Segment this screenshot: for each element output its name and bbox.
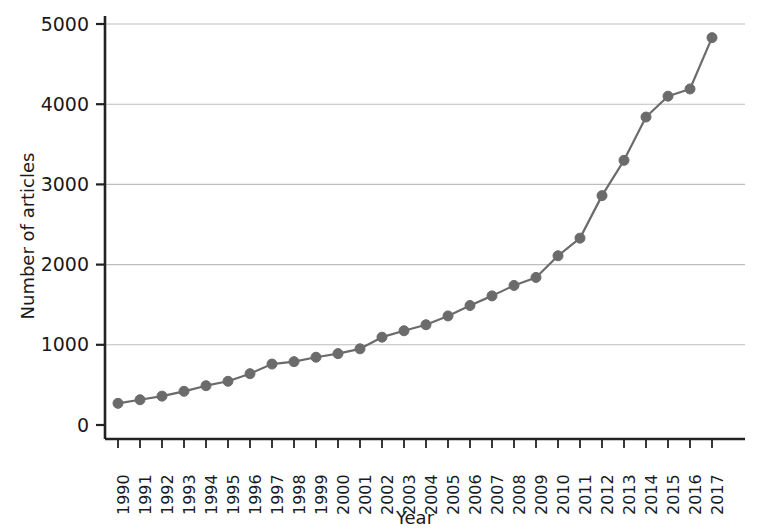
data-point-2006	[465, 301, 475, 311]
y-tick-label-0: 0	[77, 414, 89, 436]
x-axis-label: Year	[395, 507, 435, 528]
x-tick-label-1991: 1991	[136, 474, 155, 515]
data-point-1996	[245, 369, 255, 379]
x-tick-label-2012: 2012	[598, 474, 617, 515]
x-tick-label-1990: 1990	[114, 474, 133, 515]
y-tick-label-3000: 3000	[41, 173, 89, 195]
data-point-2001	[355, 344, 365, 354]
x-tick-label-2016: 2016	[686, 474, 705, 515]
data-point-2002	[377, 332, 387, 342]
chart-figure: 010002000300040005000 199019911992199319…	[0, 0, 767, 532]
data-point-1990	[113, 398, 123, 408]
x-tick-label-2007: 2007	[488, 474, 507, 515]
x-tick-label-1996: 1996	[246, 474, 265, 515]
data-point-1992	[157, 391, 167, 401]
data-point-1993	[179, 386, 189, 396]
data-point-2000	[333, 349, 343, 359]
line-chart-canvas: 010002000300040005000 199019911992199319…	[0, 0, 767, 532]
data-point-2007	[487, 291, 497, 301]
x-tick-label-1993: 1993	[180, 474, 199, 515]
data-point-1994	[201, 381, 211, 391]
data-point-2015	[663, 91, 673, 101]
data-point-1995	[223, 376, 233, 386]
y-tick-label-1000: 1000	[41, 333, 89, 355]
data-point-2013	[619, 155, 629, 165]
x-tick-label-2009: 2009	[532, 474, 551, 515]
x-tick-label-1995: 1995	[224, 474, 243, 515]
chart-background	[0, 0, 767, 532]
x-tick-label-2015: 2015	[664, 474, 683, 515]
y-tick-label-2000: 2000	[41, 253, 89, 275]
x-tick-label-2008: 2008	[510, 474, 529, 515]
data-point-2012	[597, 191, 607, 201]
data-point-2008	[509, 280, 519, 290]
data-point-2005	[443, 311, 453, 321]
x-tick-label-1999: 1999	[312, 474, 331, 515]
data-point-1997	[267, 359, 277, 369]
x-tick-label-2001: 2001	[356, 474, 375, 515]
data-point-2010	[553, 251, 563, 261]
y-axis-label: Number of articles	[17, 153, 38, 320]
data-point-1998	[289, 357, 299, 367]
data-point-2016	[685, 84, 695, 94]
x-tick-label-1994: 1994	[202, 474, 221, 515]
data-point-1999	[311, 352, 321, 362]
y-tick-label-5000: 5000	[41, 13, 89, 35]
data-point-2017	[707, 33, 717, 43]
x-tick-label-2005: 2005	[444, 474, 463, 515]
x-tick-label-2017: 2017	[708, 474, 727, 515]
x-tick-label-2000: 2000	[334, 474, 353, 515]
y-tick-label-4000: 4000	[41, 93, 89, 115]
data-point-2004	[421, 320, 431, 330]
x-tick-label-1998: 1998	[290, 474, 309, 515]
data-point-2014	[641, 112, 651, 122]
x-tick-label-1997: 1997	[268, 474, 287, 515]
data-point-2003	[399, 326, 409, 336]
x-tick-label-2011: 2011	[576, 474, 595, 515]
x-tick-label-2006: 2006	[466, 474, 485, 515]
x-tick-label-1992: 1992	[158, 474, 177, 515]
x-tick-label-2002: 2002	[378, 474, 397, 515]
data-point-2011	[575, 233, 585, 243]
data-point-2009	[531, 272, 541, 282]
x-tick-label-2014: 2014	[642, 474, 661, 515]
x-tick-label-2013: 2013	[620, 474, 639, 515]
data-point-1991	[135, 395, 145, 405]
x-tick-label-2010: 2010	[554, 474, 573, 515]
